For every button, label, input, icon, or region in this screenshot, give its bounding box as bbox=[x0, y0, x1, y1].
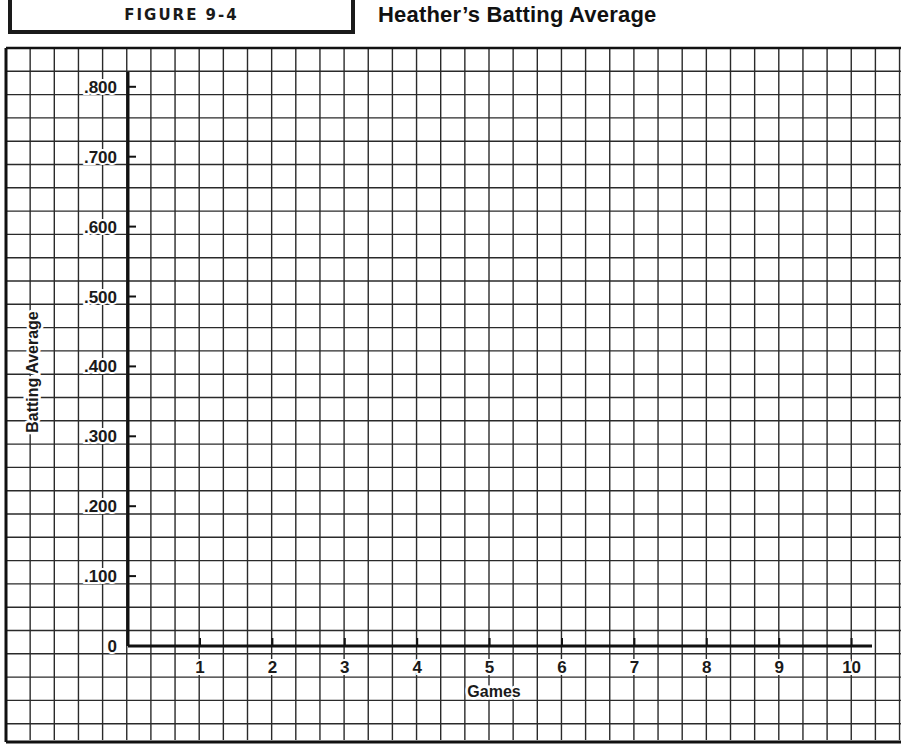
y-tick-label: .600 bbox=[84, 218, 117, 237]
x-tick-label: 5 bbox=[485, 658, 494, 677]
y-axis-label: Batting Average bbox=[24, 311, 41, 433]
y-tick-label: .500 bbox=[84, 288, 117, 307]
x-tick-label: 8 bbox=[702, 658, 711, 677]
x-tick-label: 6 bbox=[557, 658, 566, 677]
y-tick-label: .700 bbox=[84, 148, 117, 167]
y-tick-label: 0 bbox=[108, 637, 117, 656]
y-tick-label: .200 bbox=[84, 497, 117, 516]
x-tick-label: 3 bbox=[340, 658, 349, 677]
x-tick-label: 9 bbox=[774, 658, 783, 677]
y-tick-label: .800 bbox=[84, 78, 117, 97]
x-tick-label: 10 bbox=[842, 658, 861, 677]
grid-lines bbox=[6, 48, 901, 742]
y-tick-label: .400 bbox=[84, 357, 117, 376]
y-tick-label: .300 bbox=[84, 427, 117, 446]
x-tick-label: 7 bbox=[630, 658, 639, 677]
chart-area: 0.100.200.300.400.500.600.700.800 123456… bbox=[0, 0, 901, 751]
y-tick-label: .100 bbox=[84, 567, 117, 586]
x-tick-label: 1 bbox=[195, 658, 204, 677]
x-tick-label: 2 bbox=[268, 658, 277, 677]
x-tick-label: 4 bbox=[412, 658, 422, 677]
x-axis-label: Games bbox=[467, 683, 520, 700]
